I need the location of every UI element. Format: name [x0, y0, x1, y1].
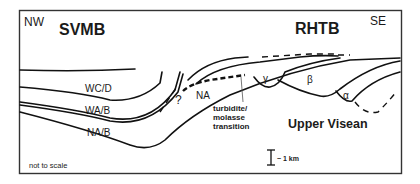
- rhtb-label: RHTB: [295, 20, 339, 37]
- geologic-cross-section: NW SVMB RHTB SE WC/D WA/B NA/B ? NA γ β …: [0, 0, 420, 184]
- wab-label: WA/B: [85, 105, 111, 116]
- se-label: SE: [370, 14, 386, 28]
- wcd-label: WC/D: [85, 83, 112, 94]
- nab-label: NA/B: [87, 127, 111, 138]
- beta-label: β: [307, 74, 313, 85]
- annotation-line-3: transition: [213, 122, 250, 131]
- annotation-line-2: molasse: [213, 113, 246, 122]
- nw-label: NW: [24, 15, 45, 29]
- na-label: NA: [196, 90, 210, 101]
- svmb-label: SVMB: [59, 21, 105, 38]
- upper-visean-label: Upper Visean: [288, 117, 368, 131]
- cross-section-svg: NW SVMB RHTB SE WC/D WA/B NA/B ? NA γ β …: [0, 0, 420, 184]
- gamma-label: γ: [263, 73, 268, 84]
- annotation-line-1: turbidite/: [213, 104, 248, 113]
- alpha-label: α: [343, 90, 349, 101]
- not-to-scale-note: not to scale: [29, 161, 67, 170]
- question-mark: ?: [175, 93, 182, 107]
- scale-bar-label: ~ 1 km: [277, 155, 299, 162]
